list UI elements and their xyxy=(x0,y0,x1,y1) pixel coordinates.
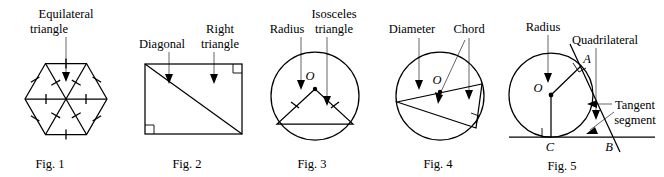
radius-leader-arrow xyxy=(544,35,552,83)
isosceles-triangle-label-line2: triangle xyxy=(315,22,354,36)
chord-leader-arrow xyxy=(435,38,473,104)
fig5-caption: Fig. 5 xyxy=(547,159,576,173)
fig5-drawing: Radius Quadrilateral Tangent segment xyxy=(507,0,664,177)
inscribed-isosceles-triangle xyxy=(277,89,353,124)
fig2-drawing: Right Diagonal triangle xyxy=(132,0,257,177)
equilateral-triangle-label-line2: triangle xyxy=(30,22,69,36)
equilateral-triangle-label-line1: Equilateral xyxy=(39,7,94,21)
rectangle-diagonal xyxy=(145,64,242,134)
fig3-drawing: Isosceles Radius triangle O xyxy=(257,0,381,177)
right-triangle-label-line1: Right xyxy=(206,22,234,36)
isosceles-triangle-leader-arrow xyxy=(323,37,331,106)
radius-label-line1: Radius xyxy=(526,20,561,34)
fig4-drawing: Diameter Chord O xyxy=(381,0,507,177)
quadrilateral-leader-arrow xyxy=(592,48,600,120)
tangent-segment-label-line2: segment xyxy=(614,113,656,127)
right-triangle-leader-arrow xyxy=(210,52,218,84)
fig1-caption: Fig. 1 xyxy=(35,157,64,171)
fig4-caption: Fig. 4 xyxy=(423,157,453,171)
figure-panel-fig2: Right Diagonal triangle xyxy=(132,0,257,177)
center-label-o: O xyxy=(533,81,542,95)
figure-panel-fig1: Equilateral triangle xyxy=(0,0,132,177)
tangent-segment-label-line1: Tangent xyxy=(615,98,656,112)
fig3-caption: Fig. 3 xyxy=(297,157,326,171)
geometry-figure-sheet: Equilateral triangle xyxy=(0,0,664,177)
point-label-a: A xyxy=(582,52,591,66)
fig2-caption: Fig. 2 xyxy=(172,157,201,171)
fig1-drawing: Equilateral triangle xyxy=(0,0,132,177)
right-angle-square-top-right xyxy=(233,64,242,73)
diameter-leader-arrow xyxy=(415,38,423,90)
right-triangle-label-line2: triangle xyxy=(201,37,240,51)
radius-label-line1: Radius xyxy=(270,22,305,36)
tangent-line-ab xyxy=(570,44,620,152)
radius-oa xyxy=(551,66,581,95)
diagonal-label-line1: Diagonal xyxy=(139,37,185,51)
radius-leader-arrow xyxy=(297,37,305,90)
figure-panel-fig5: Radius Quadrilateral Tangent segment xyxy=(507,0,664,177)
figure-panel-fig4: Diameter Chord O xyxy=(381,0,507,177)
right-angle-square-at-c xyxy=(542,128,551,137)
center-label-o: O xyxy=(432,73,441,87)
figure-panel-fig3: Isosceles Radius triangle O xyxy=(257,0,381,177)
point-label-b: B xyxy=(605,140,613,154)
circle-outline xyxy=(271,52,359,140)
chord-label-line1: Chord xyxy=(453,22,485,36)
isosceles-triangle-label-line1: Isosceles xyxy=(311,7,356,21)
quadrilateral-label-line1: Quadrilateral xyxy=(572,33,638,47)
center-label-o: O xyxy=(305,69,314,83)
point-label-c: C xyxy=(546,140,555,154)
diameter-label-line1: Diameter xyxy=(389,22,436,36)
right-angle-square-bottom-left xyxy=(145,125,154,134)
